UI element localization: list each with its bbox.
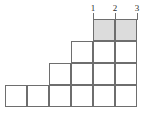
grid-cell: [115, 41, 137, 63]
column-label-3: 3: [131, 4, 143, 13]
grid-cell: [115, 63, 137, 85]
grid-cell: [49, 63, 71, 85]
column-label-tick: [93, 13, 94, 20]
grid-cell: [93, 41, 115, 63]
grid-cell: [71, 85, 93, 107]
grid-cell: [71, 41, 93, 63]
shaded-grid-cell: [93, 19, 115, 41]
grid-cell: [93, 63, 115, 85]
grid-cell: [71, 63, 93, 85]
shaded-grid-cell: [115, 19, 137, 41]
column-label-2: 2: [109, 4, 121, 13]
grid-cell: [115, 85, 137, 107]
column-label-tick: [115, 13, 116, 20]
grid-cell: [93, 85, 115, 107]
column-label-1: 1: [87, 4, 99, 13]
grid-cell: [27, 85, 49, 107]
staircase-grid-figure: 123: [0, 0, 144, 114]
column-label-tick: [137, 13, 138, 20]
grid-cell: [5, 85, 27, 107]
grid-cell: [49, 85, 71, 107]
